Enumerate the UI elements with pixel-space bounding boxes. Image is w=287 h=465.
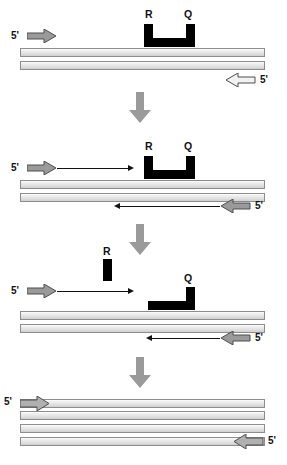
five-prime-label-forward-panel-1: 5' — [11, 31, 19, 41]
product-strand-4-panel-4 — [20, 437, 265, 446]
forward-primer-arrow-panel-4 — [20, 396, 50, 411]
process-arrow-1-down-icon — [128, 92, 152, 124]
reporter-label-panel-2: R — [145, 141, 153, 152]
five-prime-label-forward-panel-4: 5' — [4, 397, 12, 407]
five-prime-label-reverse-panel-3: 5' — [255, 333, 263, 343]
process-arrow-3-down-icon — [128, 357, 152, 389]
pcr-probe-cleavage-figure: R Q 5' 5' R Q — [0, 0, 287, 465]
reporter-label-panel-1: R — [145, 9, 153, 20]
forward-extension-arrowhead-panel-3 — [128, 288, 134, 294]
product-strand-2-panel-4 — [20, 411, 265, 420]
quencher-label-panel-3: Q — [184, 273, 192, 284]
five-prime-label-forward-panel-2: 5' — [11, 163, 19, 173]
reverse-primer-arrow-panel-1 — [226, 73, 256, 87]
reverse-primer-arrow-panel-4 — [234, 434, 264, 449]
five-prime-label-forward-panel-3: 5' — [11, 286, 19, 296]
forward-extension-line-panel-2 — [57, 168, 129, 169]
five-prime-label-reverse-panel-1: 5' — [260, 75, 268, 85]
probe-quencher-stem-panel-2 — [186, 156, 195, 179]
process-arrow-2-down-icon — [128, 224, 152, 256]
template-strand-top-panel-3 — [20, 311, 265, 320]
reverse-extension-line-panel-2 — [120, 206, 220, 207]
reverse-primer-arrow-panel-2 — [221, 199, 251, 213]
product-strand-3-panel-4 — [20, 424, 265, 433]
template-strand-bottom-panel-1 — [20, 61, 265, 70]
reverse-extension-arrowhead-panel-3 — [146, 335, 152, 341]
forward-primer-arrow-panel-1 — [27, 29, 57, 43]
quencher-label-panel-2: Q — [184, 141, 192, 152]
product-strand-1-panel-4 — [20, 399, 265, 408]
probe-bottom-bar-panel-3 — [148, 301, 195, 310]
forward-primer-arrow-panel-2 — [27, 161, 57, 175]
forward-primer-arrow-panel-3 — [27, 284, 57, 298]
template-strand-top-panel-1 — [20, 48, 265, 57]
quencher-label-panel-1: Q — [184, 9, 192, 20]
forward-extension-line-panel-3 — [57, 291, 129, 292]
reporter-label-panel-3: R — [103, 246, 111, 257]
template-strand-top-panel-2 — [20, 180, 265, 189]
released-reporter-block-panel-3 — [103, 259, 112, 281]
five-prime-label-reverse-panel-2: 5' — [255, 201, 263, 211]
probe-quencher-stem-panel-1 — [186, 24, 195, 47]
forward-extension-arrowhead-panel-2 — [128, 165, 134, 171]
reverse-extension-line-panel-3 — [152, 338, 220, 339]
five-prime-label-reverse-panel-4: 5' — [268, 436, 276, 446]
reverse-primer-arrow-panel-3 — [221, 331, 251, 345]
reverse-extension-arrowhead-panel-2 — [114, 203, 120, 209]
